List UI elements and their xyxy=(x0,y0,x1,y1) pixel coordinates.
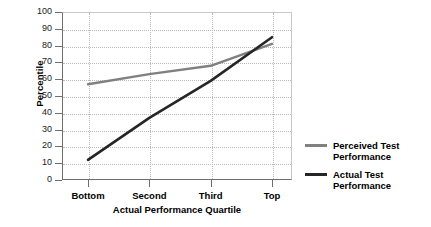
y-tick-label: 80 xyxy=(26,41,52,50)
y-tick-mark xyxy=(55,146,62,147)
y-tick-label: 90 xyxy=(26,24,52,33)
y-tick-mark xyxy=(55,96,62,97)
y-tick-mark xyxy=(55,180,62,181)
legend-label-actual-line1: Actual Test xyxy=(333,169,384,180)
x-tick-label: Bottom xyxy=(53,190,123,201)
y-tick-label: 0 xyxy=(26,175,52,184)
x-tick-mark xyxy=(272,180,273,187)
y-tick-label: 40 xyxy=(26,108,52,117)
legend-swatch-perceived xyxy=(305,144,327,147)
y-tick-mark xyxy=(55,46,62,47)
y-tick-label: 20 xyxy=(26,141,52,150)
x-tick-label: Second xyxy=(114,190,184,201)
legend-swatch-actual xyxy=(305,173,327,176)
legend-label-perceived-line2: Performance xyxy=(333,151,391,162)
y-tick-label: 70 xyxy=(26,57,52,66)
y-tick-mark xyxy=(55,12,62,13)
legend-label-actual-line2: Performance xyxy=(333,180,391,191)
y-tick-label: 60 xyxy=(26,74,52,83)
legend-label-perceived: Perceived Test Performance xyxy=(333,140,399,162)
y-tick-label: 30 xyxy=(26,125,52,134)
y-tick-label: 50 xyxy=(26,91,52,100)
x-tick-mark xyxy=(88,180,89,187)
chart-figure: Percentile 0102030405060708090100 Bottom… xyxy=(0,0,431,227)
legend-label-perceived-line1: Perceived Test xyxy=(333,140,399,151)
y-tick-mark xyxy=(55,163,62,164)
y-tick-mark xyxy=(55,29,62,30)
legend-item-perceived: Perceived Test Performance xyxy=(305,140,429,162)
x-axis-title: Actual Performance Quartile xyxy=(62,204,292,215)
series-line-perceived xyxy=(88,44,272,84)
y-tick-label: 100 xyxy=(26,7,52,16)
y-tick-label: 10 xyxy=(26,158,52,167)
x-tick-mark xyxy=(149,180,150,187)
legend-item-actual: Actual Test Performance xyxy=(305,169,429,191)
x-tick-mark xyxy=(211,180,212,187)
x-tick-label: Top xyxy=(237,190,307,201)
series-lines xyxy=(62,12,292,180)
y-tick-mark xyxy=(55,79,62,80)
series-line-actual xyxy=(88,37,272,160)
y-tick-mark xyxy=(55,130,62,131)
y-tick-mark xyxy=(55,62,62,63)
x-tick-label: Third xyxy=(176,190,246,201)
chart-legend: Perceived Test Performance Actual Test P… xyxy=(305,140,429,198)
y-tick-mark xyxy=(55,113,62,114)
legend-label-actual: Actual Test Performance xyxy=(333,169,391,191)
